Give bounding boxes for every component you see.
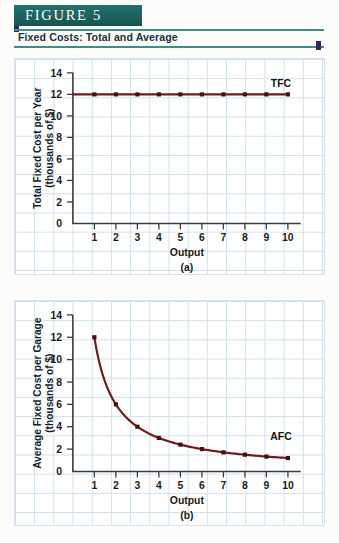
- data-point-marker: [243, 453, 247, 457]
- data-point-marker: [286, 92, 290, 96]
- y-tick-label: 6: [56, 154, 62, 165]
- y-tick-label: 0: [56, 466, 62, 477]
- chart-panel-a: 0246810121412345678910TFCOutput(a)Total …: [14, 58, 325, 275]
- x-tick-label: 4: [156, 480, 162, 491]
- y-axis-title-line2: (thousands of $): [44, 109, 55, 188]
- y-tick-label: 0: [56, 218, 62, 229]
- y-tick-label: 4: [56, 175, 62, 186]
- data-point-marker: [200, 92, 204, 96]
- x-tick-label: 7: [220, 232, 226, 243]
- x-tick-label: 5: [177, 232, 183, 243]
- panel-letter: (b): [180, 510, 193, 521]
- data-point-marker: [286, 456, 290, 460]
- data-point-marker: [135, 425, 139, 429]
- x-tick-label: 3: [135, 232, 141, 243]
- data-point-marker: [114, 92, 118, 96]
- data-point-marker: [264, 92, 268, 96]
- data-point-marker: [114, 402, 118, 406]
- x-tick-label: 1: [91, 480, 97, 491]
- data-point-marker: [243, 92, 247, 96]
- x-tick-label: 4: [156, 232, 162, 243]
- y-tick-label: 2: [56, 444, 62, 455]
- x-axis-title: Output: [170, 247, 205, 258]
- x-tick-label: 6: [199, 480, 205, 491]
- chart-axes: [73, 315, 301, 472]
- x-tick-label: 6: [199, 232, 205, 243]
- x-tick-label: 5: [178, 480, 184, 491]
- y-axis-title-line2: (thousands of $): [44, 354, 55, 433]
- x-tick-label: 7: [221, 480, 227, 491]
- x-tick-label: 2: [113, 480, 119, 491]
- series-annotation: TFC: [271, 78, 292, 89]
- data-point-marker: [92, 92, 96, 96]
- x-axis-title: Output: [170, 495, 205, 506]
- y-tick-label: 12: [50, 89, 62, 100]
- data-point-marker: [264, 455, 268, 459]
- figure-number-label: FIGURE 5: [25, 7, 102, 24]
- data-point-marker: [200, 447, 204, 451]
- figure-page: FIGURE 5 Fixed Costs: Total and Average …: [0, 0, 339, 543]
- data-point-marker: [135, 92, 139, 96]
- chart-panel-b: 0246810121412345678910AFCOutput(b)Averag…: [14, 300, 325, 526]
- x-tick-label: 3: [134, 480, 140, 491]
- y-tick-label: 14: [50, 68, 62, 79]
- y-axis-title: Total Fixed Cost per Year(thousands of $…: [32, 87, 55, 208]
- series-annotation: AFC: [270, 431, 292, 442]
- x-tick-label: 1: [92, 232, 98, 243]
- y-tick-label: 8: [56, 377, 62, 388]
- y-tick-label: 6: [56, 399, 62, 410]
- data-curve: [94, 337, 288, 458]
- data-point-marker: [221, 92, 225, 96]
- x-tick-label: 10: [282, 480, 294, 491]
- data-point-marker: [157, 92, 161, 96]
- y-tick-label: 8: [56, 132, 62, 143]
- y-tick-label: 12: [50, 332, 62, 343]
- rule-below-subtitle: [14, 46, 324, 48]
- data-point-marker: [178, 443, 182, 447]
- x-tick-label: 2: [113, 232, 119, 243]
- y-tick-label: 14: [50, 310, 62, 321]
- y-axis-title-line1: Average Fixed Cost per Garage: [32, 317, 43, 469]
- y-tick-label: 4: [56, 422, 62, 433]
- data-point-marker: [92, 335, 96, 339]
- chart-b-svg: 0246810121412345678910AFCOutput(b)Averag…: [15, 301, 324, 525]
- y-axis-title-line1: Total Fixed Cost per Year: [32, 87, 43, 208]
- y-tick-label: 2: [56, 197, 62, 208]
- data-point-marker: [157, 436, 161, 440]
- x-tick-label: 8: [242, 480, 248, 491]
- data-point-marker: [178, 92, 182, 96]
- figure-banner: FIGURE 5: [14, 5, 142, 26]
- data-point-marker: [221, 450, 225, 454]
- rule-endcap-marker: [316, 41, 321, 50]
- x-tick-label: 10: [282, 232, 294, 243]
- x-tick-label: 9: [264, 480, 270, 491]
- chart-a-svg: 0246810121412345678910TFCOutput(a)Total …: [15, 59, 324, 274]
- panel-letter: (a): [180, 262, 193, 273]
- x-tick-label: 8: [242, 232, 248, 243]
- x-tick-label: 9: [263, 232, 269, 243]
- figure-subtitle: Fixed Costs: Total and Average: [18, 31, 318, 46]
